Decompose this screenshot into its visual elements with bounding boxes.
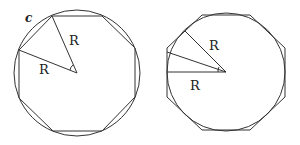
radius-line-1 (185, 31, 226, 72)
radius-label: R (69, 33, 80, 48)
octagon-circle-diagram: c R R R R (0, 0, 300, 145)
angle-arc (70, 65, 73, 70)
circumscribed-octagon-figure (167, 13, 285, 131)
radius-label: R (39, 62, 50, 77)
vertex-line (167, 52, 226, 72)
circle-label-c: c (25, 11, 33, 25)
radius-label: R (190, 78, 201, 93)
radius-label: R (209, 38, 220, 53)
inscribed-octagon-figure (14, 10, 140, 136)
